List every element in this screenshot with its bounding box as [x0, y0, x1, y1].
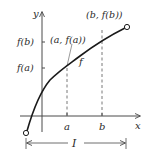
- point-label-b: (b, f(b)): [86, 9, 123, 20]
- y-axis-label: y: [32, 8, 39, 19]
- increasing-function-diagram: y x f(b) f(a) a b (a, f(a)) (b, f(b)) f …: [0, 0, 150, 157]
- point-label-a: (a, f(a)): [50, 34, 86, 45]
- tick-label-b: b: [99, 121, 105, 132]
- open-endpoint-left: [23, 130, 28, 135]
- interval-label: I: [71, 137, 77, 150]
- tick-label-fb: f(b): [16, 36, 34, 47]
- x-axis-label: x: [135, 120, 141, 131]
- open-endpoint-right: [124, 24, 129, 29]
- tick-label-a: a: [64, 121, 70, 132]
- tick-label-fa: f(a): [16, 62, 34, 73]
- curve-label-f: f: [78, 56, 85, 67]
